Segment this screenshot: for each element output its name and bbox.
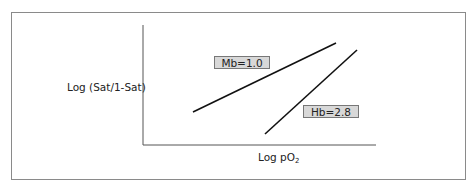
plot-area (0, 0, 476, 190)
x-axis-label: Log pO2 (258, 151, 300, 165)
mb-line (193, 43, 336, 112)
y-axis-label: Log (Sat/1-Sat) (67, 81, 146, 93)
x-axis-label-text: Log pO (258, 151, 295, 163)
x-axis-label-subscript: 2 (295, 157, 299, 165)
hb-line (265, 50, 357, 134)
hb-label-box: Hb=2.8 (303, 105, 359, 118)
mb-label-box: Mb=1.0 (214, 56, 270, 69)
